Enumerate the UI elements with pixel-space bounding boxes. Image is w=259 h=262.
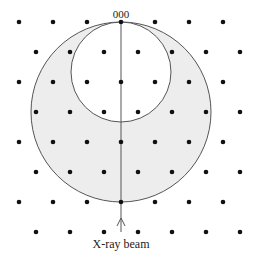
- lattice-point: [204, 110, 209, 115]
- lattice-point: [136, 230, 141, 235]
- lattice-point: [238, 110, 243, 115]
- lattice-point: [68, 230, 73, 235]
- beam-label: X-ray beam: [93, 237, 151, 251]
- lattice-point: [187, 20, 192, 25]
- lattice-point: [204, 230, 209, 235]
- lattice-point: [85, 20, 90, 25]
- lattice-point: [153, 140, 158, 145]
- lattice-point: [238, 50, 243, 55]
- lattice-point: [153, 80, 158, 85]
- lattice-point: [238, 230, 243, 235]
- lattice-point: [34, 170, 39, 175]
- lattice-point: [119, 20, 124, 25]
- lattice-point: [17, 20, 22, 25]
- lattice-point: [187, 140, 192, 145]
- lattice-point: [68, 170, 73, 175]
- lattice-point: [221, 20, 226, 25]
- lattice-point: [238, 170, 243, 175]
- lattice-point: [102, 230, 107, 235]
- lattice-point: [34, 50, 39, 55]
- lattice-point: [170, 170, 175, 175]
- lattice-point: [68, 110, 73, 115]
- lattice-point: [187, 200, 192, 205]
- lattice-point: [136, 50, 141, 55]
- lattice-point: [170, 50, 175, 55]
- lattice-point: [153, 200, 158, 205]
- lattice-point: [221, 80, 226, 85]
- lattice-point: [34, 230, 39, 235]
- lattice-point: [51, 20, 56, 25]
- lattice-point: [85, 200, 90, 205]
- lattice-point: [17, 140, 22, 145]
- lattice-point: [187, 80, 192, 85]
- lattice-point: [17, 80, 22, 85]
- lattice-point: [102, 110, 107, 115]
- lattice-point: [119, 200, 124, 205]
- lattice-point: [153, 20, 158, 25]
- lattice-point: [51, 140, 56, 145]
- lattice-point: [170, 230, 175, 235]
- lattice-point: [68, 50, 73, 55]
- lattice-point: [102, 170, 107, 175]
- origin-label: 000: [113, 8, 130, 20]
- lattice-point: [51, 80, 56, 85]
- ewald-sphere-diagram: 000 X-ray beam: [0, 0, 259, 262]
- lattice-point: [204, 170, 209, 175]
- lattice-point: [119, 80, 124, 85]
- lattice-point: [170, 110, 175, 115]
- lattice-point: [34, 110, 39, 115]
- lattice-point: [51, 200, 56, 205]
- lattice-point: [136, 110, 141, 115]
- lattice-point: [221, 200, 226, 205]
- lattice-point: [85, 80, 90, 85]
- lattice-point: [119, 140, 124, 145]
- lattice-point: [102, 50, 107, 55]
- lattice-point: [204, 50, 209, 55]
- lattice-point: [17, 200, 22, 205]
- lattice-point: [136, 170, 141, 175]
- lattice-point: [85, 140, 90, 145]
- lattice-point: [221, 140, 226, 145]
